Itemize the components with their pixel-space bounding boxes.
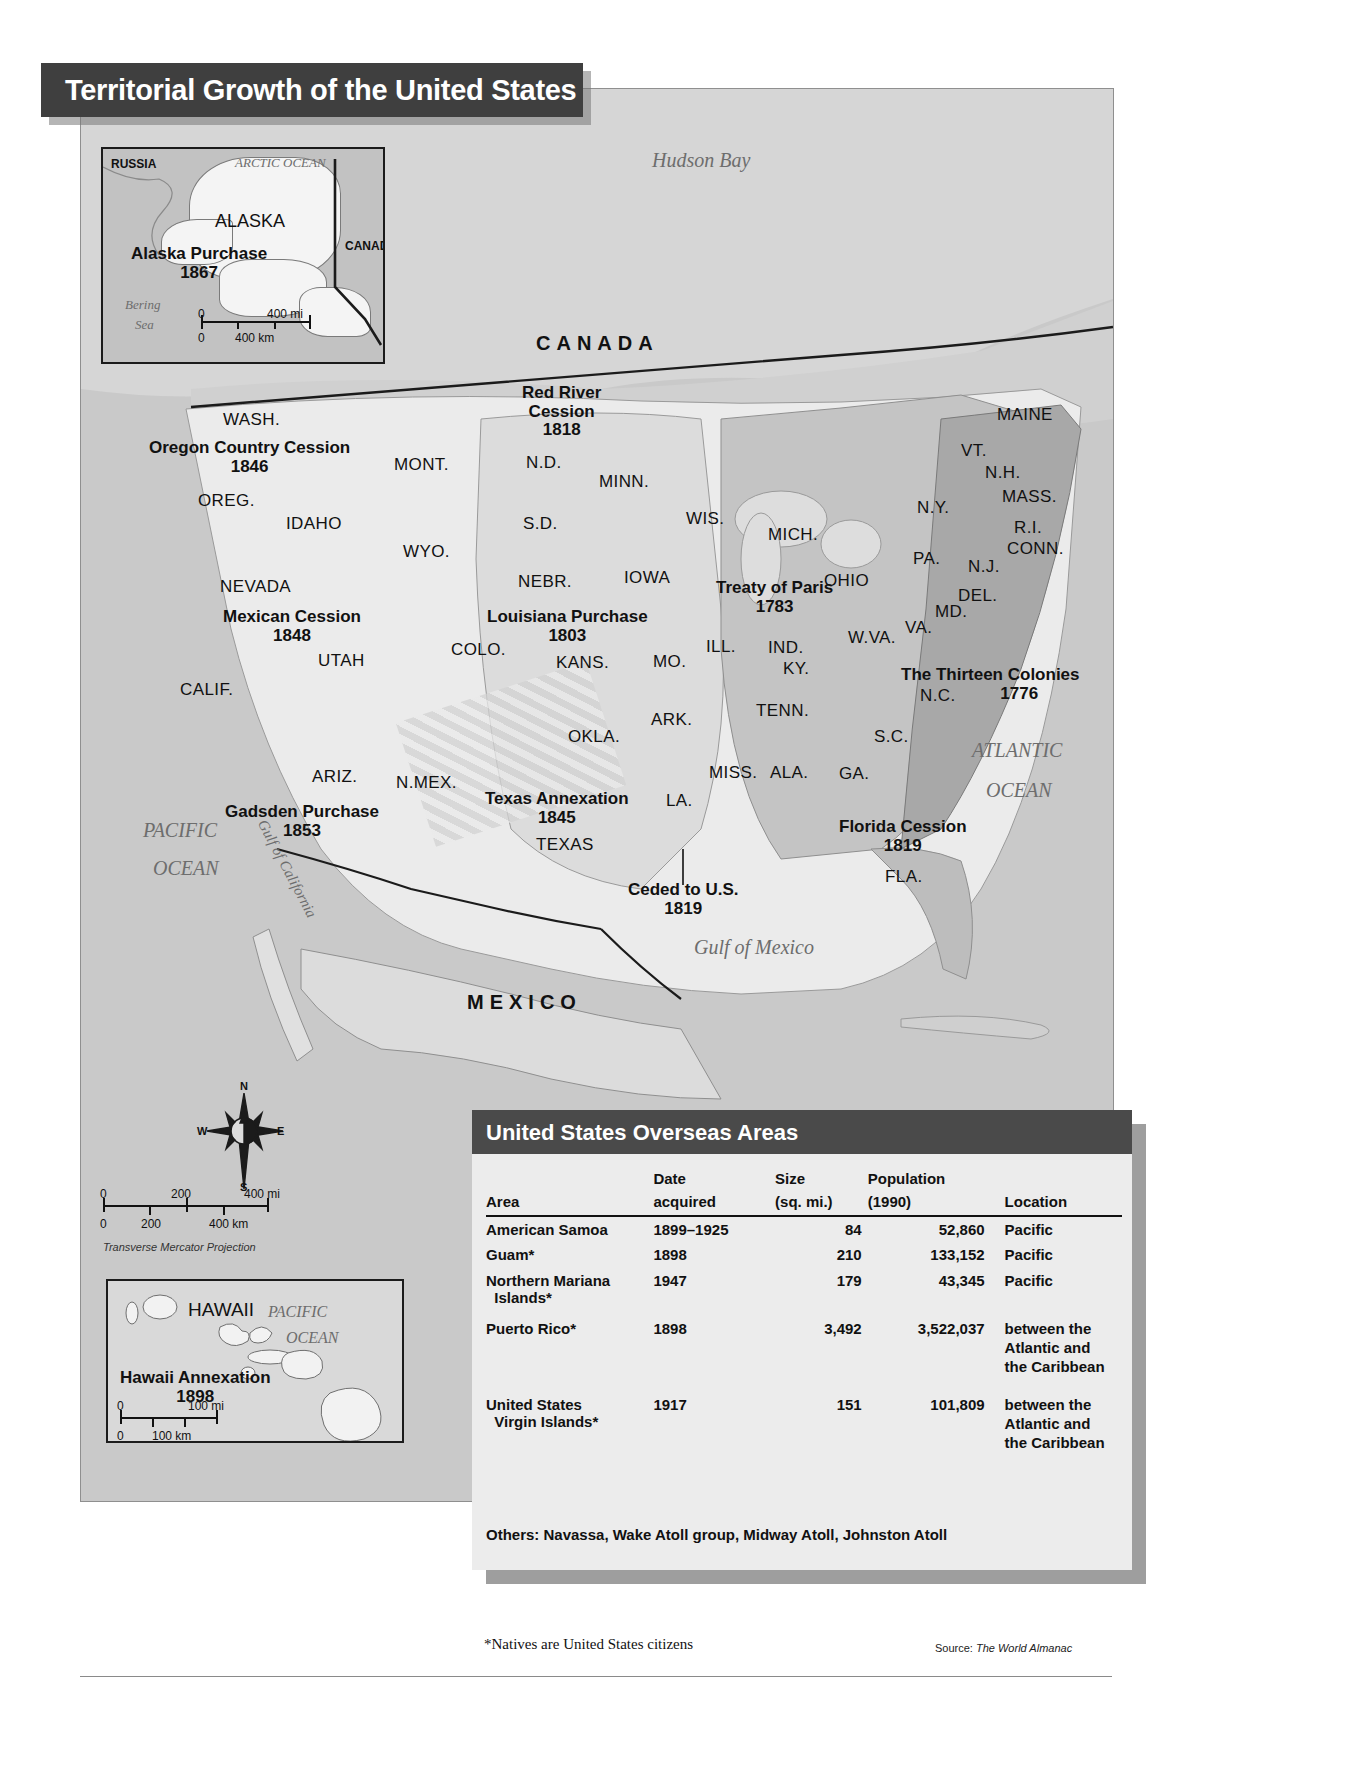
hi-scale-km-zero: 0 xyxy=(117,1429,124,1443)
territory-label: Texas Annexation xyxy=(485,789,629,808)
col-date-acquired: acquired xyxy=(653,1191,775,1216)
state-label-nc: N.C. xyxy=(920,686,956,706)
col-date-top: Date xyxy=(653,1168,775,1191)
overseas-others-note: Others: Navassa, Wake Atoll group, Midwa… xyxy=(486,1526,947,1543)
state-label-ala: ALA. xyxy=(770,763,808,783)
cell-location: between the Atlantic and the Caribbean xyxy=(991,1392,1122,1468)
territory-label: Louisiana Purchase xyxy=(487,607,648,626)
alaska-purchase-name: Alaska Purchase xyxy=(131,244,267,263)
territory-label: Treaty of Paris xyxy=(716,578,833,597)
territory-treaty-of-paris: Treaty of Paris 1783 xyxy=(716,579,833,616)
state-label-wash: WASH. xyxy=(223,410,280,430)
state-label-ri: R.I. xyxy=(1014,518,1042,538)
main-scale-mi-max: 400 mi xyxy=(244,1187,280,1201)
state-label-vt: VT. xyxy=(961,441,987,461)
state-label-ill: ILL. xyxy=(706,637,736,657)
state-label-ky: KY. xyxy=(783,659,809,679)
alaska-inset-russia-label: RUSSIA xyxy=(111,157,156,171)
state-label-iowa: IOWA xyxy=(624,568,670,588)
overseas-areas-body: Date Size Population Area acquired (sq. … xyxy=(472,1154,1132,1570)
state-label-miss: MISS. xyxy=(709,763,757,783)
territory-year: 1819 xyxy=(664,899,702,918)
territory-year: 1819 xyxy=(884,836,922,855)
alaska-inset-map: RUSSIA ARCTIC OCEAN ALASKA CANADA Bering… xyxy=(101,147,385,364)
cell-area: Northern Mariana Islands* xyxy=(486,1268,653,1316)
territory-sublabel: Cession xyxy=(529,402,595,421)
territory-year: 1848 xyxy=(273,626,311,645)
cell-size: 151 xyxy=(775,1392,868,1468)
hawaii-annexation-name: Hawaii Annexation xyxy=(120,1368,271,1387)
overseas-areas-table: Date Size Population Area acquired (sq. … xyxy=(486,1168,1122,1468)
col-area-top xyxy=(486,1168,653,1191)
main-scalebar: 0 200 400 mi 0 200 400 km xyxy=(103,1189,313,1235)
overseas-areas-header: United States Overseas Areas xyxy=(472,1110,1132,1154)
table-body: American Samoa 1899–1925 84 52,860 Pacif… xyxy=(486,1216,1122,1468)
state-label-ark: ARK. xyxy=(651,710,692,730)
hawaii-inset-pacific-label: PACIFIC xyxy=(268,1303,327,1321)
cell-population: 43,345 xyxy=(868,1268,991,1316)
ak-scale-mi-max: 400 mi xyxy=(267,307,303,321)
source-name: The World Almanac xyxy=(976,1642,1072,1654)
state-label-texas: TEXAS xyxy=(536,835,594,855)
bottom-divider xyxy=(80,1676,1112,1677)
table-row: Guam* 1898 210 133,152 Pacific xyxy=(486,1242,1122,1268)
cell-location: Pacific xyxy=(991,1242,1122,1268)
cell-size: 3,492 xyxy=(775,1316,868,1392)
state-label-calif: CALIF. xyxy=(180,680,233,700)
state-label-mont: MONT. xyxy=(394,455,449,475)
page-title-banner: Territorial Growth of the United States xyxy=(41,63,583,117)
compass-label-w: W xyxy=(197,1125,207,1137)
state-label-nevada: NEVADA xyxy=(220,577,291,597)
alaska-inset-bering-sea-label-1: Bering xyxy=(125,297,160,313)
water-label-atlantic: ATLANTIC xyxy=(972,739,1062,762)
territory-label: Mexican Cession xyxy=(223,607,361,626)
territory-oregon-country-cession: Oregon Country Cession 1846 xyxy=(149,439,350,476)
state-label-utah: UTAH xyxy=(318,651,365,671)
country-label-mexico: MEXICO xyxy=(467,991,582,1014)
cell-area: United States Virgin Islands* xyxy=(486,1392,653,1468)
state-label-maine: MAINE xyxy=(997,405,1053,425)
alaska-inset-alaska-label: ALASKA xyxy=(215,211,285,232)
main-scale-km-mid: 200 xyxy=(141,1217,161,1231)
col-size-top: Size xyxy=(775,1168,868,1191)
cell-population: 52,860 xyxy=(868,1216,991,1242)
col-location-top xyxy=(991,1168,1122,1191)
state-label-wyo: WYO. xyxy=(403,542,450,562)
cell-date: 1899–1925 xyxy=(653,1216,775,1242)
cell-population: 133,152 xyxy=(868,1242,991,1268)
alaska-inset-arctic-ocean-label: ARCTIC OCEAN xyxy=(235,155,326,171)
cell-area: Puerto Rico* xyxy=(486,1316,653,1392)
state-label-ohio: OHIO xyxy=(824,571,869,591)
cell-date: 1917 xyxy=(653,1392,775,1468)
alaska-purchase-label: Alaska Purchase 1867 xyxy=(131,245,267,282)
country-label-canada: CANADA xyxy=(536,332,659,355)
state-label-nmex: N.MEX. xyxy=(396,773,457,793)
cell-date: 1898 xyxy=(653,1242,775,1268)
territory-year: 1818 xyxy=(543,420,581,439)
state-label-okla: OKLA. xyxy=(568,727,620,747)
territory-year: 1783 xyxy=(756,597,794,616)
cell-area: American Samoa xyxy=(486,1216,653,1242)
state-label-minn: MINN. xyxy=(599,472,649,492)
cell-size: 84 xyxy=(775,1216,868,1242)
page-title: Territorial Growth of the United States xyxy=(65,74,576,107)
cell-location: Pacific xyxy=(991,1268,1122,1316)
cell-size: 179 xyxy=(775,1268,868,1316)
projection-label: Transverse Mercator Projection xyxy=(103,1241,256,1253)
cell-location: between the Atlantic and the Caribbean xyxy=(991,1316,1122,1392)
col-population-top: Population xyxy=(868,1168,991,1191)
col-size: (sq. mi.) xyxy=(775,1191,868,1216)
compass-label-n: N xyxy=(240,1080,248,1092)
territory-label: Red River xyxy=(522,383,601,402)
water-label-gulf-of-mexico: Gulf of Mexico xyxy=(694,936,814,959)
cell-population: 101,809 xyxy=(868,1392,991,1468)
table-row: American Samoa 1899–1925 84 52,860 Pacif… xyxy=(486,1216,1122,1242)
cell-population: 3,522,037 xyxy=(868,1316,991,1392)
ak-scale-km-zero: 0 xyxy=(198,331,205,345)
hi-scale-km-max: 100 km xyxy=(152,1429,191,1443)
state-label-nd: N.D. xyxy=(526,453,562,473)
hawaii-inset-map: HAWAII PACIFIC OCEAN Hawaii Annexation 1… xyxy=(106,1279,404,1443)
map-page: RUSSIA ARCTIC OCEAN ALASKA CANADA Bering… xyxy=(0,0,1350,1768)
territory-year: 1853 xyxy=(283,821,321,840)
ceded-leader-line xyxy=(681,849,691,889)
